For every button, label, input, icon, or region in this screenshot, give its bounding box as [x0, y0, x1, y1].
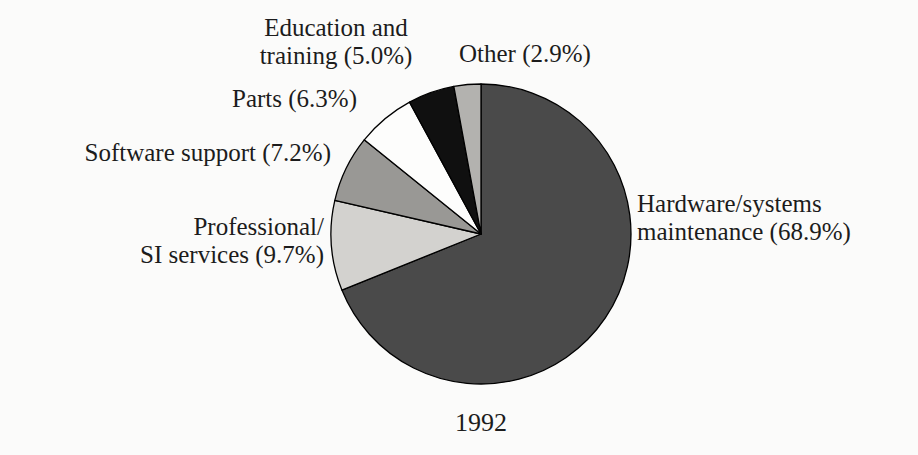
slice-label-line: Hardware/systems: [637, 190, 851, 218]
slice-label-line: Professional/: [140, 213, 324, 241]
chart-title: 1992: [455, 408, 507, 438]
slice-label-professional: Professional/ SI services (9.7%): [140, 213, 324, 269]
slice-label-parts: Parts (6.3%): [232, 85, 357, 113]
pie-chart-figure: Education and training (5.0%) Other (2.9…: [0, 0, 918, 455]
slice-label-line: training (5.0%): [260, 42, 413, 70]
slice-label-line: Parts (6.3%): [232, 85, 357, 113]
slice-label-line: Education and: [260, 14, 413, 42]
slice-label-line: Software support (7.2%): [85, 139, 331, 167]
slice-label-line: maintenance (68.9%): [637, 218, 851, 246]
slice-label-software: Software support (7.2%): [85, 139, 331, 167]
slice-label-line: SI services (9.7%): [140, 241, 324, 269]
slice-label-hardware: Hardware/systems maintenance (68.9%): [637, 190, 851, 246]
slice-label-line: Other (2.9%): [459, 40, 591, 68]
slice-label-education: Education and training (5.0%): [260, 14, 413, 70]
slice-label-other: Other (2.9%): [459, 40, 591, 68]
